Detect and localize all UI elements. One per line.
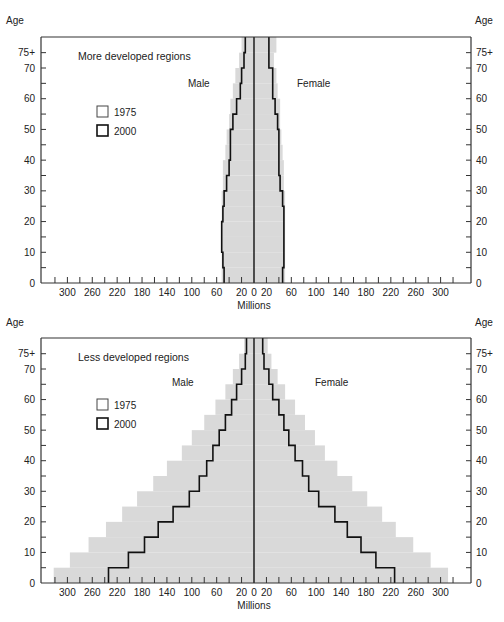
bar-2000-female — [254, 568, 448, 583]
y-tick-label-right: 75+ — [476, 348, 493, 359]
bar-2000-female — [254, 384, 285, 399]
x-tick-label: 260 — [407, 587, 424, 598]
x-tick-label: 20 — [236, 287, 248, 298]
male-label: Male — [172, 377, 194, 388]
bar-2000-male — [122, 507, 254, 522]
bar-2000-female — [254, 83, 278, 98]
legend-swatch-2000 — [97, 418, 108, 429]
x-tick-label: 140 — [333, 587, 350, 598]
y-tick-label-right: 10 — [476, 547, 488, 558]
x-tick-label: 180 — [134, 287, 151, 298]
bar-2000-female — [254, 445, 325, 460]
legend-swatch-1975 — [97, 399, 108, 410]
x-axis-title: Millions — [237, 600, 270, 611]
y-tick-label-left: 10 — [24, 247, 36, 258]
x-tick-label: 300 — [59, 587, 76, 598]
bar-2000-female — [254, 507, 382, 522]
y-tick-label-left: 60 — [24, 93, 36, 104]
y-tick-label-left: 40 — [24, 455, 36, 466]
y-tick-label-right: 30 — [476, 486, 488, 497]
y-tick-label-right: 60 — [476, 394, 488, 405]
bar-2000-male — [215, 400, 254, 415]
bar-2000-male — [239, 354, 254, 369]
y-tick-label-left: 75+ — [18, 348, 35, 359]
y-tick-label-right: 20 — [476, 516, 488, 527]
panel-title: More developed regions — [78, 50, 191, 62]
y-tick-label-left: 0 — [29, 278, 35, 289]
bar-2000-female — [254, 400, 295, 415]
y-tick-label-right: 40 — [476, 155, 488, 166]
y-tick-label-left: 20 — [24, 216, 36, 227]
bar-2000-female — [254, 430, 315, 445]
x-tick-label: 260 — [84, 587, 101, 598]
bar-2000-male — [239, 53, 254, 68]
bar-2000-male — [222, 222, 254, 237]
x-tick-label: 300 — [432, 587, 449, 598]
legend: 19752000 — [97, 399, 137, 430]
bar-2000-female — [254, 476, 352, 491]
y-tick-label-right: 75+ — [476, 47, 493, 58]
y-tick-label-left: 30 — [24, 486, 36, 497]
x-tick-label: 60 — [286, 587, 298, 598]
bar-2000-male — [106, 522, 254, 537]
x-tick-label-zero: 0 — [251, 587, 257, 598]
panel-title: Less developed regions — [78, 351, 189, 363]
x-tick-label: 180 — [358, 587, 375, 598]
bar-2000-male — [223, 176, 254, 191]
male-label: Male — [188, 78, 210, 89]
bar-2000-male — [244, 338, 254, 354]
x-tick-label: 300 — [432, 287, 449, 298]
y-axis-title-right: Age — [475, 317, 493, 328]
bar-2000-male — [222, 252, 254, 267]
pyramid-panel-more-developed: 00101020203030404050506060707075+75+AgeA… — [6, 15, 493, 311]
bar-2000-female — [254, 237, 285, 252]
pyramid-charts-canvas: 00101020203030404050506060707075+75+AgeA… — [0, 0, 504, 622]
y-tick-label-left: 10 — [24, 547, 36, 558]
legend-label-1975: 1975 — [114, 400, 137, 411]
female-label: Female — [297, 78, 331, 89]
bar-2000-male — [242, 37, 254, 53]
x-tick-label: 180 — [134, 587, 151, 598]
y-tick-label-left: 75+ — [18, 47, 35, 58]
bar-2000-male — [137, 491, 254, 506]
bar-2000-female — [254, 552, 431, 567]
bar-2000-male — [235, 68, 254, 83]
x-tick-label: 100 — [308, 587, 325, 598]
x-tick-label: 260 — [407, 287, 424, 298]
y-tick-label-right: 60 — [476, 93, 488, 104]
bar-2000-male — [222, 237, 254, 252]
bar-2000-male — [54, 568, 254, 583]
x-axis-title: Millions — [237, 300, 270, 311]
bar-2000-female — [254, 206, 285, 221]
y-tick-label-right: 30 — [476, 185, 488, 196]
bar-2000-female — [254, 522, 396, 537]
y-tick-label-left: 40 — [24, 155, 36, 166]
y-tick-label-left: 50 — [24, 425, 36, 436]
x-tick-label: 20 — [236, 587, 248, 598]
bar-2000-male — [223, 160, 254, 175]
bar-2000-male — [222, 268, 254, 283]
x-tick-label: 220 — [382, 287, 399, 298]
y-tick-label-left: 30 — [24, 185, 36, 196]
bar-2000-male — [204, 415, 254, 430]
x-tick-label: 100 — [183, 587, 200, 598]
y-tick-label-right: 50 — [476, 425, 488, 436]
bar-2000-female — [254, 222, 285, 237]
pyramid-panel-less-developed: 00101020203030404050506060707075+75+AgeA… — [6, 317, 493, 611]
y-tick-label-left: 60 — [24, 394, 36, 405]
bar-2000-male — [70, 552, 254, 567]
x-tick-label: 100 — [308, 287, 325, 298]
x-tick-label: 220 — [382, 587, 399, 598]
bar-2000-male — [230, 99, 254, 114]
bar-2000-female — [254, 99, 280, 114]
x-tick-label: 60 — [211, 587, 223, 598]
y-tick-label-left: 20 — [24, 516, 36, 527]
legend-swatch-1975 — [97, 106, 108, 117]
bar-2000-female — [254, 338, 268, 354]
y-tick-label-right: 40 — [476, 455, 488, 466]
bar-2000-male — [222, 206, 254, 221]
x-tick-label-zero: 0 — [251, 287, 257, 298]
x-tick-label: 220 — [109, 287, 126, 298]
bar-2000-male — [153, 476, 254, 491]
y-axis-title-left: Age — [6, 15, 24, 26]
